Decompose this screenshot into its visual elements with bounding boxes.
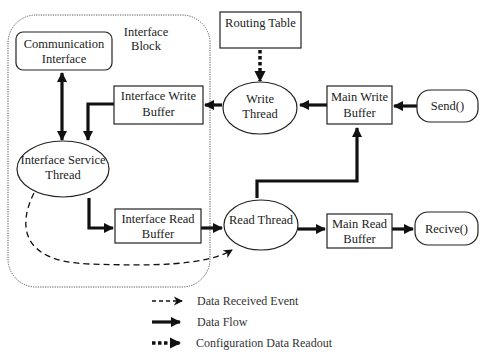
read-thread-label: Read Thread [229, 213, 294, 227]
node-interface-service-thread: Interface Service Thread [17, 141, 109, 197]
node-read-thread: Read Thread [224, 200, 298, 250]
interface-write-buffer-line1: Interface Write [121, 89, 197, 103]
legend-label-configuration-data-readout: Configuration Data Readout [196, 336, 333, 350]
node-interface-read-buffer: Interface Read Buffer [115, 209, 201, 243]
node-main-read-buffer: Main Read Buffer [327, 214, 392, 248]
write-thread-line2: Thread [242, 107, 278, 121]
node-routing-table: Routing Table [220, 12, 301, 48]
send-label: Send() [431, 99, 464, 113]
main-read-buffer-line2: Buffer [343, 232, 376, 246]
node-main-write-buffer: Main Write Buffer [327, 86, 392, 124]
node-communication-interface: Communication Interface [16, 32, 112, 70]
node-write-thread: Write Thread [223, 82, 297, 134]
legend-item-data-received-event: Data Received Event [152, 294, 299, 308]
edge-iwb-to-ist [88, 104, 114, 140]
legend: Data Received Event Data Flow Configurat… [152, 294, 333, 350]
communication-interface-line2: Interface [42, 52, 87, 66]
main-write-buffer-line2: Buffer [343, 106, 376, 120]
main-write-buffer-line1: Main Write [331, 90, 389, 104]
legend-item-configuration-data-readout: Configuration Data Readout [152, 336, 333, 350]
recive-label: Recive() [425, 222, 468, 236]
interface-block-label-line2: Block [131, 39, 162, 53]
interface-write-buffer-line2: Buffer [142, 105, 175, 119]
legend-label-data-flow: Data Flow [197, 315, 248, 329]
node-send: Send() [417, 90, 478, 122]
node-interface-write-buffer: Interface Write Buffer [114, 86, 203, 124]
architecture-diagram: Interface Block Communication Interface [0, 0, 490, 356]
node-recive: Recive() [415, 212, 478, 245]
interface-read-buffer-line1: Interface Read [121, 212, 195, 226]
interface-block-label-line1: Interface [124, 25, 169, 39]
interface-read-buffer-line2: Buffer [142, 227, 175, 241]
routing-table-label: Routing Table [225, 16, 296, 30]
interface-service-thread-line2: Thread [45, 168, 81, 182]
main-read-buffer-line1: Main Read [332, 217, 388, 231]
legend-item-data-flow: Data Flow [152, 315, 248, 329]
legend-label-data-received-event: Data Received Event [197, 294, 299, 308]
edge-ist-to-irb [89, 198, 113, 228]
interface-service-thread-line1: Interface Service [20, 153, 105, 167]
edge-rt-to-mwb [257, 128, 357, 198]
write-thread-line1: Write [246, 92, 274, 106]
communication-interface-line1: Communication [24, 37, 105, 51]
